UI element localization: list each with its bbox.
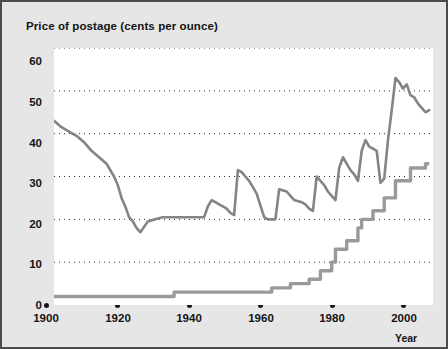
x-tick-1940: 1940 [165, 313, 213, 325]
x-axis-label: Year [395, 332, 417, 344]
y-tick-0: 0 [14, 300, 42, 312]
y-tick-10: 10 [14, 259, 42, 271]
plot-area [54, 48, 433, 305]
y-tick-40: 40 [14, 138, 42, 150]
chart-figure: Price of postage (cents per ounce) 60 50… [0, 0, 448, 349]
figure-inner-panel: Price of postage (cents per ounce) 60 50… [10, 10, 438, 339]
series-line-real [54, 78, 429, 232]
x-tick-1920: 1920 [94, 313, 142, 325]
y-tick-20: 20 [14, 219, 42, 231]
x-tick-2000: 2000 [380, 313, 428, 325]
y-tick-30: 30 [14, 178, 42, 190]
series-line-nominal [54, 164, 429, 297]
x-tick-dot-1900 [44, 303, 49, 308]
x-tick-1960: 1960 [237, 313, 285, 325]
chart-title: Price of postage (cents per ounce) [26, 20, 218, 32]
y-tick-60: 60 [14, 56, 42, 68]
x-tick-1980: 1980 [308, 313, 356, 325]
x-tick-1900: 1900 [22, 313, 70, 325]
y-tick-50: 50 [14, 97, 42, 109]
